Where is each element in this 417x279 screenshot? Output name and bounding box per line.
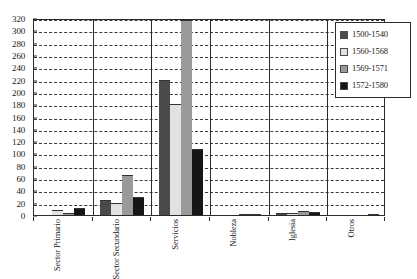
bar xyxy=(298,211,309,215)
y-tick-label: 260 xyxy=(12,51,25,60)
x-tick-label-text: Sector Secundario xyxy=(111,219,121,279)
chart-legend: 1500-15401560-15681569-15711572-1580 xyxy=(335,22,411,98)
x-tick-mark xyxy=(92,217,93,221)
legend-item: 1500-1540 xyxy=(340,26,407,43)
x-tick-label-text: Nobleza xyxy=(228,219,238,247)
bar xyxy=(170,104,181,215)
y-tick-mark xyxy=(33,166,37,167)
bar xyxy=(133,197,144,215)
bar xyxy=(159,80,170,215)
y-tick-mark xyxy=(33,43,37,44)
x-tick-label-text: Sector Primario xyxy=(52,219,62,271)
legend-item: 1572-1580 xyxy=(340,77,407,94)
bar xyxy=(52,210,63,215)
bar xyxy=(309,212,320,215)
legend-label: 1500-1540 xyxy=(352,30,388,39)
y-tick-mark xyxy=(33,19,37,20)
x-tick-mark xyxy=(209,217,210,221)
legend-label: 1569-1571 xyxy=(352,64,388,73)
y-tick-label: 140 xyxy=(12,125,25,134)
bar xyxy=(239,214,250,215)
y-tick-mark xyxy=(33,129,37,130)
y-tick-label: 60 xyxy=(16,175,25,184)
y-tick-label: 180 xyxy=(12,101,25,110)
y-tick-mark xyxy=(33,216,37,217)
bar xyxy=(192,149,203,215)
legend-label: 1560-1568 xyxy=(352,47,388,56)
y-tick-label: 200 xyxy=(12,88,25,97)
bar-group xyxy=(269,20,328,215)
x-tick-label: Iglesia xyxy=(268,219,327,274)
bar-group xyxy=(34,20,93,215)
x-tick-mark xyxy=(33,217,34,221)
y-tick-label: 0 xyxy=(21,212,25,221)
bar xyxy=(111,203,122,215)
bar xyxy=(74,208,85,215)
bar xyxy=(276,213,287,215)
x-tick-label: Nobleza xyxy=(209,219,268,274)
legend-swatch-icon xyxy=(340,31,348,39)
y-tick-mark xyxy=(33,191,37,192)
bar-group xyxy=(93,20,152,215)
bar-group xyxy=(151,20,210,215)
y-axis: 3203002802602402202001801601401201008060… xyxy=(0,19,29,216)
y-tick-mark xyxy=(33,142,37,143)
bar xyxy=(368,214,379,215)
x-tick-label-text: Otros xyxy=(346,219,356,237)
y-tick-label: 220 xyxy=(12,76,25,85)
bar xyxy=(100,200,111,215)
x-tick-label: Otros xyxy=(326,219,385,274)
y-tick-mark xyxy=(33,80,37,81)
y-tick-label: 240 xyxy=(12,64,25,73)
y-tick-label: 120 xyxy=(12,138,25,147)
bar xyxy=(122,175,133,215)
bar xyxy=(63,213,74,215)
legend-item: 1560-1568 xyxy=(340,43,407,60)
x-axis: Sector PrimarioSector SecundarioServicio… xyxy=(33,217,385,274)
y-tick-label: 100 xyxy=(12,150,25,159)
y-tick-label: 320 xyxy=(12,15,25,24)
x-tick-label-text: Servicios xyxy=(170,219,180,250)
x-tick-label: Sector Secundario xyxy=(92,219,151,274)
x-tick-mark xyxy=(326,217,327,221)
legend-item: 1569-1571 xyxy=(340,60,407,77)
y-tick-label: 280 xyxy=(12,39,25,48)
y-tick-mark xyxy=(33,31,37,32)
bar xyxy=(287,213,298,215)
y-tick-mark xyxy=(33,55,37,56)
bar xyxy=(181,20,192,215)
y-tick-mark xyxy=(33,68,37,69)
y-tick-label: 40 xyxy=(16,187,25,196)
x-tick-label-text: Iglesia xyxy=(287,219,297,241)
y-tick-mark xyxy=(33,203,37,204)
legend-swatch-icon xyxy=(340,82,348,90)
legend-swatch-icon xyxy=(340,65,348,73)
legend-swatch-icon xyxy=(340,48,348,56)
y-tick-label: 160 xyxy=(12,113,25,122)
y-tick-mark xyxy=(33,154,37,155)
bar xyxy=(250,214,261,215)
bar-group xyxy=(210,20,269,215)
x-tick-label: Servicios xyxy=(150,219,209,274)
x-tick-mark xyxy=(268,217,269,221)
y-tick-label: 300 xyxy=(12,27,25,36)
y-tick-mark xyxy=(33,105,37,106)
bars-layer xyxy=(34,20,384,215)
y-tick-mark xyxy=(33,117,37,118)
x-tick-mark xyxy=(384,217,385,221)
y-tick-label: 80 xyxy=(16,162,25,171)
x-tick-label: Sector Primario xyxy=(33,219,92,274)
legend-label: 1572-1580 xyxy=(352,81,388,90)
y-tick-label: 20 xyxy=(16,199,25,208)
y-tick-mark xyxy=(33,92,37,93)
x-tick-mark xyxy=(150,217,151,221)
plot-area xyxy=(33,19,385,216)
y-tick-mark xyxy=(33,179,37,180)
